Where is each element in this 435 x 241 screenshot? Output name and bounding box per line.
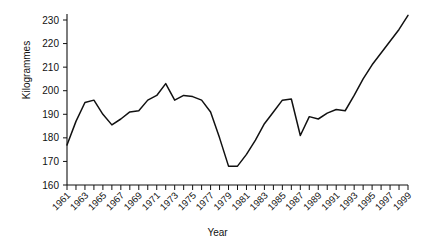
x-axis-ticks (67, 185, 408, 190)
x-axis-tick-label: 1967 (104, 190, 127, 213)
x-axis-title-label: Year (207, 227, 227, 238)
chart-container: Kilogrammes 160170180190200210220230 196… (0, 0, 435, 241)
x-axis-labels: 1961196319651967196919711973197519771979… (50, 190, 414, 213)
y-axis-ticks: 160170180190200210220230 (42, 15, 67, 191)
x-axis-tick-label: 1969 (121, 190, 144, 213)
x-axis-tick-label: 1989 (301, 190, 324, 213)
x-axis-tick-label: 1985 (265, 190, 288, 213)
x-axis-tick-label: 1965 (86, 190, 109, 213)
x-axis-tick-label: 1993 (337, 190, 360, 213)
x-axis-tick-label: 1987 (283, 190, 306, 213)
x-axis-tick-label: 1977 (193, 190, 216, 213)
data-series-line (67, 15, 408, 166)
x-axis-tick-label: 1971 (139, 190, 162, 213)
y-axis-tick-label: 170 (42, 156, 59, 167)
x-axis-title: Year (0, 222, 435, 240)
y-axis-tick-label: 200 (42, 85, 59, 96)
y-axis-tick-label: 220 (42, 38, 59, 49)
line-chart-plot: 160170180190200210220230 196119631965196… (0, 0, 435, 241)
y-axis-tick-label: 160 (42, 180, 59, 191)
x-axis-tick-label: 1999 (391, 190, 414, 213)
x-axis-tick-label: 1991 (319, 190, 342, 213)
x-axis-tick-label: 1963 (68, 190, 91, 213)
x-axis-tick-label: 1975 (175, 190, 198, 213)
y-axis-tick-label: 190 (42, 109, 59, 120)
x-axis-tick-label: 1983 (247, 190, 270, 213)
x-axis-tick-label: 1973 (157, 190, 180, 213)
y-axis-tick-label: 180 (42, 132, 59, 143)
x-axis-tick-label: 1961 (50, 190, 73, 213)
x-axis-tick-label: 1981 (229, 190, 252, 213)
y-axis-tick-label: 230 (42, 15, 59, 26)
y-axis-tick-label: 210 (42, 62, 59, 73)
x-axis-tick-label: 1995 (355, 190, 378, 213)
x-axis-tick-label: 1979 (211, 190, 234, 213)
x-axis-tick-label: 1997 (373, 190, 396, 213)
